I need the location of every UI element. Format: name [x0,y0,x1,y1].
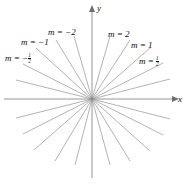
slope-label-m-neg-half-text: m = − [5,53,28,63]
slope-label-m-pos-2: m = 2 [108,30,130,39]
slope-label-m-pos-half-fraction: 1 2 [156,56,159,68]
y-axis-arrowhead [89,5,95,12]
fraction-denominator: 2 [156,61,159,67]
ray-slope-one-neg-left [36,48,92,99]
slope-label-m-pos-half: m = 1 2 [139,56,159,68]
fraction-denominator: 2 [28,58,31,64]
slope-label-m-neg-1: m = −1 [21,38,49,47]
ray-slope-one-pos-left [34,99,92,150]
ray-slope-four-pos-right [92,36,110,99]
x-axis-label: x [178,94,182,104]
ray-slope-two-pos-right [92,40,130,99]
ray-slope-four-neg-left [74,36,92,99]
ray-slope-half-pos-right [92,63,163,99]
y-axis-label: y [97,3,101,13]
figure-canvas [0,0,189,184]
slope-label-m-neg-half-fraction: 1 2 [28,53,31,65]
ray-slope-four-pos-left [75,99,92,165]
slope-lines-figure: x y m = −2 m = −1 m = − 1 2 m = 2 m = 1 … [0,0,189,184]
slope-label-m-pos-half-text: m = [139,56,156,66]
ray-slope-four-neg-right [92,99,110,165]
slope-label-m-neg-2: m = −2 [48,28,76,37]
origin-point [91,98,93,100]
slope-label-m-neg-half: m = − 1 2 [5,53,31,65]
ray-slope-quarter-neg-left [16,80,92,99]
slope-label-m-pos-1: m = 1 [131,41,153,50]
ray-slope-quarter-pos-left [16,99,92,118]
